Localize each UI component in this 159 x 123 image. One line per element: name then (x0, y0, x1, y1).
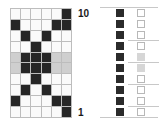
grid-cell (42, 9, 51, 19)
grid-cell (42, 85, 51, 95)
side-panel (100, 8, 159, 118)
grid-cell (52, 9, 61, 19)
grid-cell (62, 107, 71, 117)
grid-cell (62, 63, 71, 73)
grid-cell (11, 96, 20, 106)
grid-cell (21, 96, 30, 106)
grid-cell (52, 107, 61, 117)
pattern-grid (10, 8, 72, 118)
outline-square (137, 31, 145, 39)
grid-cell (52, 85, 61, 95)
outline-square (137, 9, 145, 17)
grid-cell (42, 74, 51, 84)
grid-cell (42, 96, 51, 106)
grid-cell (31, 107, 40, 117)
dark-square (116, 31, 124, 39)
outline-square (137, 53, 145, 61)
grid-cell (21, 107, 30, 117)
grid-cell (62, 85, 71, 95)
outline-square (137, 75, 145, 83)
outline-square (137, 64, 145, 72)
grid-cell (52, 20, 61, 30)
grid-cell (11, 53, 20, 63)
grid-cell (21, 42, 30, 52)
outline-square (137, 86, 145, 94)
grid-cell (21, 53, 30, 63)
grid-cell (31, 85, 40, 95)
grid-cell (31, 96, 40, 106)
grid-cell (11, 31, 20, 41)
outline-square (137, 97, 145, 105)
grid-cell (52, 42, 61, 52)
grid-cell (11, 107, 20, 117)
grid-cell (62, 20, 71, 30)
divider-line (100, 117, 158, 118)
outline-square (137, 108, 145, 116)
grid-cell (11, 74, 20, 84)
grid-cell (31, 31, 40, 41)
grid-cell (21, 85, 30, 95)
grid-cell (62, 96, 71, 106)
grid-cell (31, 53, 40, 63)
grid-cell (11, 42, 20, 52)
dark-square (116, 75, 124, 83)
grid-cell (52, 63, 61, 73)
outline-square (137, 20, 145, 28)
grid-cell (52, 96, 61, 106)
dark-square (116, 86, 124, 94)
divider-line (100, 7, 158, 8)
grid-cell (11, 63, 20, 73)
grid-cell (62, 42, 71, 52)
grid-cell (52, 53, 61, 63)
dark-square (116, 108, 124, 116)
outline-square (137, 42, 145, 50)
grid-cell (21, 20, 30, 30)
grid-cell (31, 74, 40, 84)
grid-cell (42, 42, 51, 52)
dark-square (116, 20, 124, 28)
divider-line (128, 84, 159, 85)
dark-square (116, 64, 124, 72)
grid-cell (21, 74, 30, 84)
grid-cell (42, 31, 51, 41)
dark-square (116, 97, 124, 105)
grid-cell (52, 74, 61, 84)
grid-cell (21, 9, 30, 19)
grid-cell (21, 31, 30, 41)
grid-cell (62, 31, 71, 41)
divider-line (128, 106, 159, 107)
grid-cell (11, 9, 20, 19)
grid-cell (62, 74, 71, 84)
grid-cell (62, 53, 71, 63)
dark-square (116, 9, 124, 17)
grid-cell (11, 20, 20, 30)
grid-cell (21, 63, 30, 73)
grid-cell (31, 63, 40, 73)
row-label-top: 10 (78, 9, 89, 19)
grid-cell (31, 42, 40, 52)
grid-cell (42, 107, 51, 117)
dark-square (116, 42, 124, 50)
grid-cell (62, 9, 71, 19)
divider-line (128, 62, 159, 63)
dark-square (116, 53, 124, 61)
grid-cell (31, 9, 40, 19)
grid-cell (31, 20, 40, 30)
grid-cell (11, 85, 20, 95)
grid-cell (42, 20, 51, 30)
divider-line (128, 40, 159, 41)
grid-cell (42, 53, 51, 63)
row-label-bottom: 1 (78, 108, 84, 118)
grid-cell (52, 31, 61, 41)
grid-cell (42, 63, 51, 73)
